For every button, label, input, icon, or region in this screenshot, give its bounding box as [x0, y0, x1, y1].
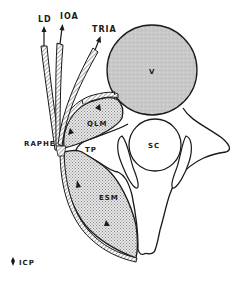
- label-tp: TP: [85, 146, 97, 154]
- label-qlm: QLM: [87, 120, 107, 128]
- ioa-arrow-icon: [60, 24, 65, 44]
- lumbar-cross-section-diagram: LD IOA TRIA V QLM RAPHE TP SC ESM ICP: [0, 0, 245, 285]
- legend-icp-icon: [11, 257, 15, 266]
- label-sc: SC: [148, 142, 160, 150]
- raphe-junction: [56, 146, 66, 156]
- label-tria: TRIA: [92, 25, 117, 34]
- ld-arrow-icon: [42, 26, 47, 46]
- label-vertebral-body: V: [149, 68, 155, 76]
- label-raphe: RAPHE: [24, 140, 56, 148]
- legend: ICP: [11, 257, 35, 267]
- legend-label: ICP: [19, 259, 35, 267]
- label-ld: LD: [38, 15, 52, 24]
- tria-arrow-icon: [95, 36, 101, 50]
- label-esm: ESM: [99, 194, 119, 202]
- label-ioa: IOA: [60, 12, 79, 21]
